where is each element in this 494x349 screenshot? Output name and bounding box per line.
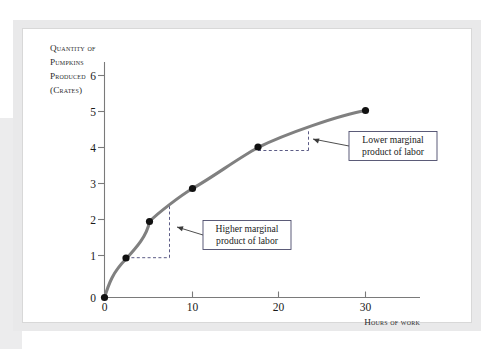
annotation-lower-line-1: Lower marginal xyxy=(362,134,424,145)
x-tick-label-20: 20 xyxy=(273,301,285,313)
data-point-4 xyxy=(254,143,261,150)
y-tick-label-6: 6 xyxy=(90,70,96,82)
y-tick-label-0: 0 xyxy=(90,292,96,304)
y-axis-title: Quantity of Pumpkins Produced (Crates) xyxy=(50,43,96,95)
annotation-lower-line-2: product of labor xyxy=(362,146,425,157)
x-axis-title: Hours of work xyxy=(364,317,420,327)
data-points xyxy=(101,107,369,301)
data-point-5 xyxy=(362,107,369,114)
slide-root: 0 1 2 3 4 5 6 0 10 20 30 Quantity of Pum… xyxy=(0,0,494,349)
y-tick-label-4: 4 xyxy=(90,142,96,154)
axis-lines xyxy=(105,62,421,298)
annotation-higher-line-1: Higher marginal xyxy=(216,223,279,234)
data-point-2 xyxy=(146,218,153,225)
y-axis-title-line-3: Produced xyxy=(50,71,86,81)
y-tick-label-5: 5 xyxy=(90,106,96,118)
annotation-higher-line-2: product of labor xyxy=(216,235,279,246)
leader-arrowhead-higher xyxy=(177,226,184,231)
step-marker-lower-marginal xyxy=(258,131,309,151)
x-axis-ticks xyxy=(193,292,366,298)
annotation-higher-marginal-product[interactable]: Higher marginal product of labor xyxy=(203,221,291,250)
x-tick-label-30: 30 xyxy=(360,301,372,313)
y-axis-ticks xyxy=(98,76,105,256)
y-tick-label-3: 3 xyxy=(90,178,96,190)
data-point-0 xyxy=(101,294,108,301)
x-tick-label-0: 0 xyxy=(102,301,108,313)
data-point-1 xyxy=(122,254,129,261)
y-axis-title-line-2: Pumpkins xyxy=(50,57,84,67)
data-point-3 xyxy=(189,185,196,192)
x-tick-label-10: 10 xyxy=(187,301,199,313)
production-function-curve xyxy=(105,111,366,298)
y-axis-title-line-1: Quantity of xyxy=(50,43,96,53)
leader-arrowhead-lower xyxy=(313,138,320,143)
y-tick-label-1: 1 xyxy=(90,250,96,262)
y-axis-title-line-4: (Crates) xyxy=(50,85,82,95)
annotation-lower-marginal-product[interactable]: Lower marginal product of labor xyxy=(349,132,437,161)
y-tick-label-2: 2 xyxy=(90,214,96,226)
chart-plot-area: 0 1 2 3 4 5 6 0 10 20 30 Quantity of Pum… xyxy=(0,0,494,349)
production-function-chart: 0 1 2 3 4 5 6 0 10 20 30 Quantity of Pum… xyxy=(0,0,494,349)
